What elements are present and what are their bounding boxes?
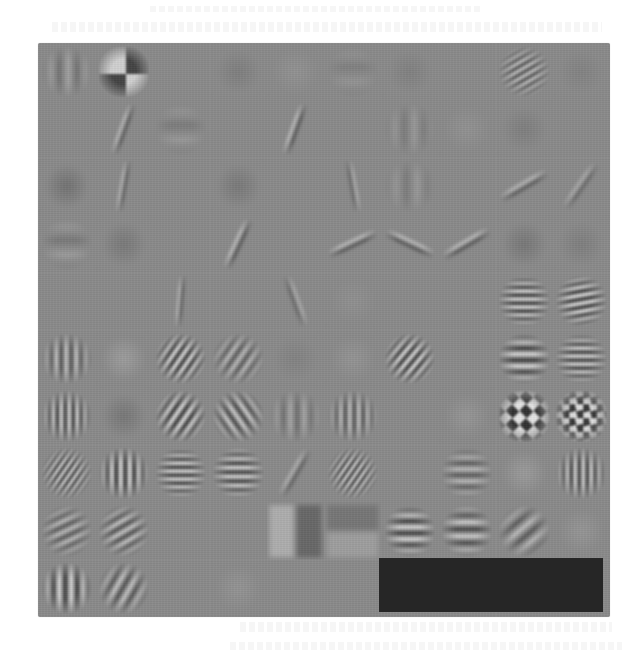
filter-cell xyxy=(324,100,381,157)
filter-cell xyxy=(438,43,495,100)
filter-pattern xyxy=(327,390,378,442)
filter-cell xyxy=(267,387,324,444)
filter-pattern xyxy=(270,562,321,614)
filter-pattern xyxy=(498,333,549,385)
filter-cell xyxy=(496,100,553,157)
filter-pattern xyxy=(41,333,92,385)
filter-pattern xyxy=(212,161,263,213)
filter-pattern xyxy=(98,562,149,614)
filter-pattern xyxy=(98,333,149,385)
filter-cell xyxy=(553,330,610,387)
filter-cell xyxy=(324,273,381,330)
filter-cell xyxy=(38,43,95,100)
filter-pattern xyxy=(212,333,263,385)
filter-cell xyxy=(553,158,610,215)
filter-cell xyxy=(438,387,495,444)
filter-pattern xyxy=(212,275,263,327)
filter-pattern xyxy=(98,448,149,500)
filter-cell xyxy=(496,215,553,272)
filter-pattern xyxy=(556,448,607,500)
filter-pattern xyxy=(327,275,378,327)
filter-pattern xyxy=(41,46,92,98)
filter-cell xyxy=(381,158,438,215)
filter-pattern xyxy=(441,505,492,557)
filter-cell xyxy=(38,330,95,387)
filter-cell xyxy=(210,215,267,272)
filter-cell xyxy=(267,330,324,387)
filter-pattern xyxy=(498,505,549,557)
filter-cell xyxy=(381,100,438,157)
filter-pattern xyxy=(441,218,492,270)
bleed-through-text xyxy=(230,642,622,650)
filter-pattern xyxy=(270,218,321,270)
filter-pattern xyxy=(498,390,549,442)
filter-cell xyxy=(38,215,95,272)
filter-cell xyxy=(324,387,381,444)
filter-pattern xyxy=(41,505,92,557)
filter-pattern xyxy=(498,275,549,327)
bleed-through-text xyxy=(240,622,612,632)
filter-pattern xyxy=(441,161,492,213)
filter-pattern xyxy=(212,390,263,442)
filter-pattern xyxy=(155,161,206,213)
filter-pattern xyxy=(41,448,92,500)
filter-cell xyxy=(152,445,209,502)
filter-cell xyxy=(38,502,95,559)
filter-cell xyxy=(95,215,152,272)
filter-cell xyxy=(95,100,152,157)
filter-cell xyxy=(324,330,381,387)
filter-pattern xyxy=(270,448,321,500)
filter-pattern xyxy=(498,161,549,213)
filter-cell xyxy=(381,387,438,444)
filter-pattern xyxy=(498,448,549,500)
filter-cell xyxy=(267,445,324,502)
filter-cell xyxy=(496,330,553,387)
filter-pattern xyxy=(327,161,378,213)
filter-pattern xyxy=(441,333,492,385)
filter-pattern xyxy=(212,218,263,270)
filter-cell xyxy=(324,215,381,272)
filter-cell xyxy=(553,502,610,559)
filter-pattern xyxy=(384,46,435,98)
filter-cell xyxy=(38,560,95,617)
filter-pattern xyxy=(212,562,263,614)
empty-filter-slots xyxy=(379,558,603,612)
filter-cell xyxy=(152,387,209,444)
filter-cell xyxy=(152,273,209,330)
filter-pattern xyxy=(441,46,492,98)
filter-cell xyxy=(324,560,381,617)
filter-pattern xyxy=(556,218,607,270)
filter-cell xyxy=(553,43,610,100)
filter-pattern xyxy=(270,390,321,442)
filter-cell xyxy=(496,158,553,215)
bleed-through-text xyxy=(52,22,602,32)
filter-pattern xyxy=(270,505,321,557)
filter-pattern xyxy=(212,103,263,155)
filter-cell xyxy=(496,43,553,100)
filter-cell xyxy=(210,445,267,502)
filter-pattern xyxy=(384,448,435,500)
filter-cell xyxy=(438,215,495,272)
filter-pattern xyxy=(270,103,321,155)
filter-cell xyxy=(381,273,438,330)
filter-cell xyxy=(381,445,438,502)
filter-cell xyxy=(38,158,95,215)
filter-pattern xyxy=(98,46,149,98)
filter-cell xyxy=(267,560,324,617)
filter-cell xyxy=(553,100,610,157)
filter-cell xyxy=(95,387,152,444)
filter-pattern xyxy=(384,103,435,155)
filter-cell xyxy=(438,100,495,157)
filter-pattern xyxy=(384,505,435,557)
filter-cell xyxy=(438,502,495,559)
filter-cell xyxy=(267,502,324,559)
filter-cell xyxy=(210,158,267,215)
filter-pattern xyxy=(556,46,607,98)
filter-pattern xyxy=(327,103,378,155)
filter-cell xyxy=(210,560,267,617)
filter-cell xyxy=(38,387,95,444)
filter-cell xyxy=(210,100,267,157)
filter-cell xyxy=(95,445,152,502)
filter-cell xyxy=(38,273,95,330)
filter-pattern xyxy=(270,161,321,213)
